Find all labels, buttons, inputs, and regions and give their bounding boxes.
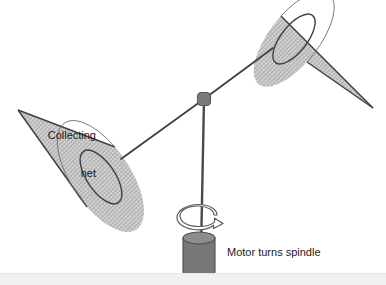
left-arm-rod [121,99,204,159]
bottom-divider-band [0,273,386,285]
rotation-arrow-icon [177,205,223,230]
right-cone-lower-edge [307,62,373,108]
collecting-net-label-line-2: net [22,167,96,180]
motor-cylinder [183,232,215,278]
right-collecting-net [254,0,373,108]
motor-cylinder-top [183,232,215,244]
collecting-net-label-line-1: Collecting [22,129,96,142]
pivot-hub-body [198,93,211,106]
apparatus-diagram: Collecting net Motor turns spindle [0,0,386,285]
collecting-net-label: Collecting net [22,104,96,204]
motor-spindle-label: Motor turns spindle [227,246,321,259]
rotation-arrow-outline [177,205,223,230]
pivot-hub [198,93,211,106]
